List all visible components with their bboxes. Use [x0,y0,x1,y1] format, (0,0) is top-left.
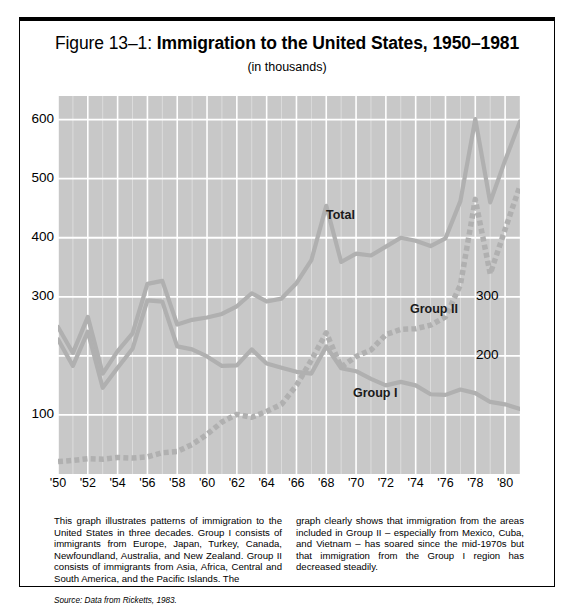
caption: This graph illustrates patterns of immig… [54,515,524,585]
x-tick-56: '56 [132,476,162,490]
series-label-group-ii: Group II [410,302,458,316]
title-block: Figure 13–1: Immigration to the United S… [20,33,554,74]
y-tick-left-500: 500 [18,170,54,185]
chart-svg [58,96,520,474]
figure-name: Immigration to the United States, 1950–1… [157,33,519,53]
page-title: Figure 13–1: Immigration to the United S… [20,33,554,54]
x-tick-60: '60 [192,476,222,490]
x-tick-76: '76 [430,476,460,490]
source-text: Source: Data from Ricketts, 1983. [54,596,177,605]
figure-subtitle: (in thousands) [20,60,554,74]
y-tick-right-200: 200 [476,347,499,362]
x-tick-58: '58 [162,476,192,490]
x-tick-54: '54 [103,476,133,490]
y-tick-right-300: 300 [476,288,499,303]
series-label-group-i: Group I [353,386,397,400]
x-tick-62: '62 [222,476,252,490]
caption-column-right: graph clearly shows that immigration fro… [296,515,524,585]
plot-background [58,96,520,474]
x-tick-74: '74 [401,476,431,490]
x-tick-68: '68 [311,476,341,490]
y-tick-left-100: 100 [18,406,54,421]
source-note: Source: Data from Ricketts, 1983. [54,596,177,605]
x-tick-52: '52 [73,476,103,490]
x-tick-50: '50 [43,476,73,490]
y-tick-left-600: 600 [18,111,54,126]
x-tick-72: '72 [371,476,401,490]
x-tick-78: '78 [460,476,490,490]
x-tick-70: '70 [341,476,371,490]
figure-number: Figure 13–1: [55,33,152,53]
x-axis-ticks: '50'52'54'56'58'60'62'64'66'68'70'72'74'… [58,476,520,494]
figure-frame: Figure 13–1: Immigration to the United S… [19,17,555,587]
y-tick-left-300: 300 [18,288,54,303]
series-label-total: Total [326,208,355,222]
caption-column-left: This graph illustrates patterns of immig… [54,515,282,585]
chart-plot-area: Total Group II Group I 600500400300100 3… [58,96,520,474]
x-tick-66: '66 [281,476,311,490]
x-tick-80: '80 [490,476,520,490]
y-tick-left-400: 400 [18,229,54,244]
x-tick-64: '64 [252,476,282,490]
